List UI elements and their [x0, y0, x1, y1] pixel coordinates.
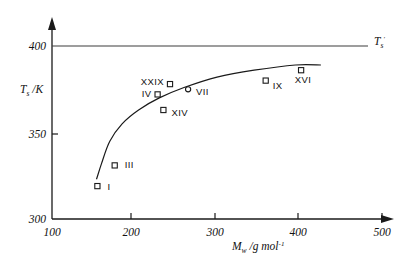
- data-points-group: IIIIIVXIVXXIXVIIIXXVI: [95, 68, 312, 193]
- data-point-ix: IX: [263, 78, 283, 91]
- data-point-label: VII: [196, 86, 209, 97]
- marker-square: [112, 163, 117, 168]
- data-point-xxix: XXIX: [141, 76, 173, 87]
- data-point-label: IV: [142, 88, 152, 99]
- marker-square: [263, 78, 268, 83]
- y-axis-arrow-icon: [48, 17, 56, 30]
- y-axis-title: Ts /K: [20, 83, 44, 98]
- data-point-label: III: [125, 159, 134, 170]
- marker-square: [161, 107, 166, 112]
- asymptote-group: Ts': [52, 35, 385, 50]
- chart-figure: Ts' 400 350 300 100 200 300 400 500 Ts /…: [0, 0, 414, 262]
- x-axis-arrow-icon: [381, 215, 394, 223]
- y-ticks-group: 400 350 300: [28, 40, 58, 225]
- data-point-label: IX: [273, 80, 283, 91]
- marker-square: [299, 68, 304, 73]
- marker-circle: [186, 87, 191, 92]
- y-tick-label-300: 300: [28, 213, 47, 225]
- data-point-xvi: XVI: [295, 68, 312, 86]
- marker-square: [167, 82, 172, 87]
- data-point-label: XXIX: [141, 76, 165, 87]
- axes-group: [48, 17, 394, 223]
- data-point-iv: IV: [142, 88, 160, 99]
- data-point-label: I: [107, 181, 110, 192]
- y-tick-label-400: 400: [29, 40, 47, 52]
- x-tick-label-500: 500: [373, 226, 391, 238]
- data-point-vii: VII: [186, 86, 209, 97]
- data-point-iii: III: [112, 159, 134, 170]
- asymptote-label: Ts': [374, 35, 385, 50]
- data-point-label: XIV: [171, 107, 188, 118]
- chart-canvas: Ts' 400 350 300 100 200 300 400 500 Ts /…: [0, 0, 414, 262]
- data-point-xiv: XIV: [161, 107, 188, 118]
- marker-square: [95, 184, 100, 189]
- y-tick-label-350: 350: [28, 128, 47, 140]
- data-point-label: XVI: [295, 74, 312, 85]
- x-axis-title: Mw /g mol-1: [231, 240, 284, 255]
- x-tick-label-100: 100: [43, 226, 61, 238]
- x-ticks-group: 100 200 300 400 500: [43, 213, 391, 238]
- x-tick-label-200: 200: [122, 226, 140, 238]
- x-tick-label-300: 300: [205, 226, 224, 238]
- marker-square: [155, 92, 160, 97]
- x-tick-label-400: 400: [289, 226, 307, 238]
- data-point-i: I: [95, 181, 111, 192]
